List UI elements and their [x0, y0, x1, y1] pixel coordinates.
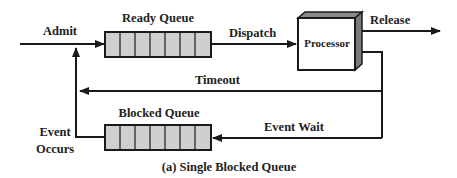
event-occurs-line2: Occurs	[36, 141, 74, 158]
admit-label: Admit	[43, 25, 77, 38]
dispatch-label: Dispatch	[229, 27, 276, 40]
ready-queue-label: Ready Queue	[122, 12, 194, 25]
process-state-diagram: Admit Ready Queue Dispatch Processor Rel…	[0, 0, 457, 178]
ready-queue-box	[105, 32, 211, 57]
blocked-queue-box	[105, 125, 211, 150]
processor-exit-path	[362, 52, 382, 138]
release-label: Release	[370, 14, 410, 27]
event-wait-label: Event Wait	[264, 121, 324, 134]
processor-label: Processor	[304, 38, 350, 49]
event-occurs-path	[76, 48, 105, 137]
diagram-caption: (a) Single Blocked Queue	[162, 161, 296, 174]
blocked-queue-label: Blocked Queue	[119, 107, 200, 120]
event-occurs-label: Event Occurs	[36, 124, 74, 158]
event-occurs-line1: Event	[36, 124, 74, 141]
timeout-label: Timeout	[195, 74, 240, 87]
